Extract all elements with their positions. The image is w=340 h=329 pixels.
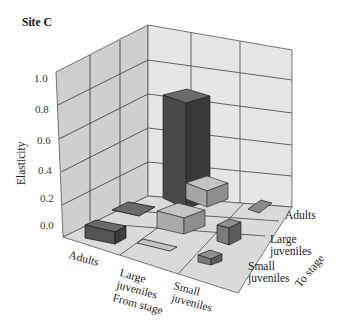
to-label-adults: Adults bbox=[285, 209, 316, 221]
z-axis-label: Elasticity bbox=[15, 141, 28, 185]
chart-3d-bars: 1.0 0.8 0.6 0.4 0.2 0.0 Elasticity Adult… bbox=[0, 0, 340, 329]
to-label-small-1: Small bbox=[248, 260, 275, 272]
z-tick-0.8: 0.8 bbox=[35, 103, 49, 115]
z-tick-0.0: 0.0 bbox=[40, 219, 54, 231]
to-stage-axis-label: To stage bbox=[292, 252, 327, 290]
bar-small-to-large bbox=[217, 219, 241, 245]
z-tick-0.4: 0.4 bbox=[38, 164, 52, 176]
z-tick-0.6: 0.6 bbox=[37, 134, 51, 146]
to-label-small-2: juveniles bbox=[247, 272, 290, 285]
from-label-adults: Adults bbox=[67, 248, 100, 268]
z-tick-0.2: 0.2 bbox=[40, 192, 54, 204]
z-tick-1.0: 1.0 bbox=[34, 72, 48, 84]
to-label-large-2: juveniles bbox=[269, 245, 312, 258]
